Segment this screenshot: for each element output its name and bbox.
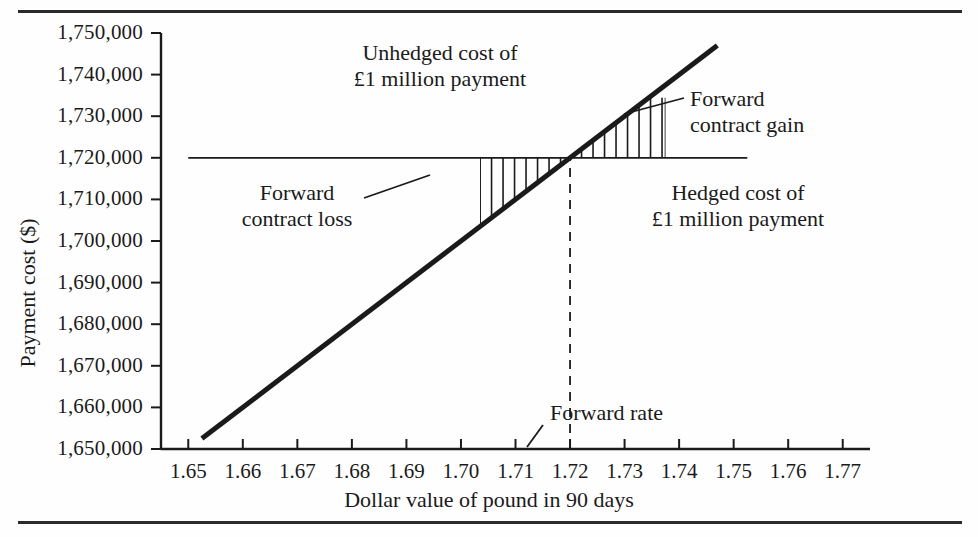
x-tick-label: 1.77 [809,461,877,482]
x-axis-title: Dollar value of pound in 90 days [0,487,978,513]
unhedged-cost-line [202,45,717,438]
annotation-forward-contract-gain: Forward contract gain [690,86,920,138]
chart-figure: 1,650,0001,660,0001,670,0001,680,0001,69… [0,0,978,537]
annotation-hedged-cost-line1: Hedged cost of [598,180,878,206]
annotation-forward-contract-gain-line1: Forward [690,86,920,112]
annotation-hedged-cost-line2: £1 million payment [598,206,878,232]
y-axis-ticks [151,33,161,449]
y-tick-label: 1,650,000 [0,438,143,459]
annotation-forward-contract-loss: Forward contract loss [212,180,382,232]
y-tick-label: 1,750,000 [0,22,143,43]
y-tick-label: 1,740,000 [0,64,143,85]
annotation-forward-contract-loss-line1: Forward [212,180,382,206]
annotation-hedged-cost: Hedged cost of £1 million payment [598,180,878,232]
y-axis-title: Payment cost ($) [15,183,41,403]
y-tick-label: 1,720,000 [0,147,143,168]
y-tick-label: 1,730,000 [0,105,143,126]
forward-contract-gain-leader [624,98,684,114]
annotation-unhedged-cost: Unhedged cost of £1 million payment [300,40,580,92]
annotation-unhedged-cost-line2: £1 million payment [300,66,580,92]
x-axis-ticks [188,439,842,449]
forward-rate-leader [527,425,543,447]
annotation-forward-contract-loss-line2: contract loss [212,206,382,232]
annotation-unhedged-cost-line1: Unhedged cost of [300,40,580,66]
annotation-forward-rate: Forward rate [550,400,663,426]
forward-contract-loss-hatching [480,98,570,298]
annotation-forward-contract-gain-line2: contract gain [690,112,920,138]
